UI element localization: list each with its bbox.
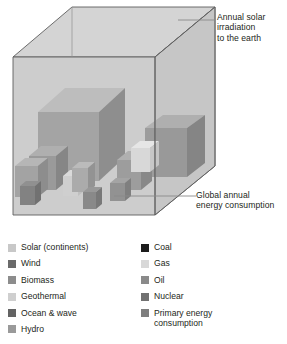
legend-label-ocean-wave: Ocean & wave xyxy=(21,307,77,319)
legend-swatch-wind xyxy=(8,260,16,268)
annotation-global-annual-energy-consumption: Global annual energy consumption xyxy=(196,190,274,211)
annotation-annual-solar-irradiation: Annual solar irradiation to the earth xyxy=(217,12,265,43)
legend-column-right: Coal Gas Oil Nuclear Primary energy cons… xyxy=(141,241,212,334)
legend-item-coal[interactable]: Coal xyxy=(141,241,212,254)
legend-swatch-oil xyxy=(141,276,149,284)
legend-item-geothermal[interactable]: Geothermal xyxy=(8,290,88,303)
legend-label-biomass: Biomass xyxy=(21,274,54,286)
legend-item-solar-continents[interactable]: Solar (continents) xyxy=(8,241,88,254)
legend-swatch-gas xyxy=(141,260,149,268)
legend-swatch-primary-energy-consumption xyxy=(141,309,149,317)
legend-item-oil[interactable]: Oil xyxy=(141,274,212,287)
legend-label-coal: Coal xyxy=(154,241,172,253)
legend-label-primary-energy-consumption: Primary energy consumption xyxy=(154,307,212,329)
legend-label-oil: Oil xyxy=(154,274,165,286)
legend-swatch-ocean-wave xyxy=(8,309,16,317)
legend-item-nuclear[interactable]: Nuclear xyxy=(141,290,212,303)
legend-swatch-coal xyxy=(141,244,149,252)
chart-legend: Solar (continents) Wind Biomass Geotherm… xyxy=(0,241,287,344)
legend-swatch-biomass xyxy=(8,276,16,284)
legend-label-gas: Gas xyxy=(154,257,170,269)
legend-column-left: Solar (continents) Wind Biomass Geotherm… xyxy=(8,241,88,339)
legend-swatch-solar-continents xyxy=(8,244,16,252)
legend-swatch-geothermal xyxy=(8,293,16,301)
legend-item-primary-energy-consumption[interactable]: Primary energy consumption xyxy=(141,307,212,331)
legend-item-gas[interactable]: Gas xyxy=(141,257,212,270)
legend-item-hydro[interactable]: Hydro xyxy=(8,323,88,336)
legend-label-solar-continents: Solar (continents) xyxy=(21,241,88,253)
legend-item-biomass[interactable]: Biomass xyxy=(8,274,88,287)
legend-label-hydro: Hydro xyxy=(21,323,44,335)
legend-label-wind: Wind xyxy=(21,257,41,269)
legend-item-ocean-wave[interactable]: Ocean & wave xyxy=(8,307,88,320)
legend-label-nuclear: Nuclear xyxy=(154,290,184,302)
legend-swatch-nuclear xyxy=(141,293,149,301)
legend-label-geothermal: Geothermal xyxy=(21,290,66,302)
legend-item-wind[interactable]: Wind xyxy=(8,257,88,270)
cube-front-glass xyxy=(13,57,155,215)
legend-swatch-hydro xyxy=(8,325,16,333)
